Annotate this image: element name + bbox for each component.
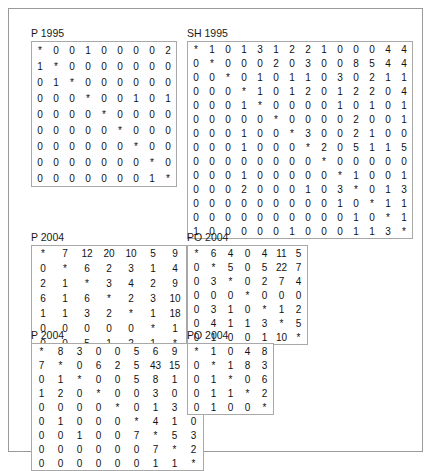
matrix-cell: 0 bbox=[252, 210, 268, 224]
matrix-cell: 0 bbox=[112, 154, 128, 170]
matrix-cell: 0 bbox=[268, 70, 284, 84]
matrix-cell: 0 bbox=[239, 302, 256, 316]
matrix-cell: 0 bbox=[204, 70, 220, 84]
matrix-cell: 0 bbox=[70, 442, 89, 456]
matrix-cell: 1 bbox=[316, 42, 332, 57]
matrix-cell: 0 bbox=[300, 168, 316, 182]
matrix-cell: 5 bbox=[364, 56, 380, 70]
matrix-cell: 1 bbox=[332, 84, 348, 98]
matrix-cell: * bbox=[188, 344, 206, 359]
matrix-cell: 0 bbox=[268, 210, 284, 224]
matrix-cell: 2 bbox=[290, 302, 308, 316]
matrix-po-2004-bottom-title: PO 2004 bbox=[187, 329, 274, 341]
matrix-cell: 1 bbox=[380, 182, 396, 196]
matrix-row: 0001000*205115 bbox=[188, 140, 413, 154]
matrix-cell: 0 bbox=[188, 386, 206, 400]
matrix-cell: 1 bbox=[32, 58, 49, 74]
matrix-cell: 1 bbox=[128, 90, 144, 106]
matrix-row: *00100002 bbox=[32, 42, 177, 59]
matrix-cell: * bbox=[108, 400, 127, 414]
matrix-cell: 0 bbox=[239, 246, 256, 261]
matrix-cell: 0 bbox=[188, 316, 206, 330]
matrix-cell: 0 bbox=[284, 112, 300, 126]
matrix-cell: 1 bbox=[252, 70, 268, 84]
matrix-cell: * bbox=[222, 274, 239, 288]
matrix-cell: 10 bbox=[120, 246, 142, 262]
matrix-cell: 0 bbox=[89, 442, 108, 456]
matrix-cell: 0 bbox=[348, 154, 364, 168]
matrix-cell: 1 bbox=[32, 306, 55, 321]
matrix-cell: 0 bbox=[316, 70, 332, 84]
matrix-cell: 3 bbox=[396, 182, 413, 196]
matrix-row: 00000011* bbox=[32, 456, 204, 471]
matrix-cell: 0 bbox=[332, 112, 348, 126]
matrix-cell: 0 bbox=[204, 98, 220, 112]
matrix-cell: 0 bbox=[284, 182, 300, 196]
matrix-row: 0*62314 bbox=[32, 261, 187, 276]
matrix-cell: 0 bbox=[268, 196, 284, 210]
matrix-cell: * bbox=[128, 138, 144, 154]
matrix-cell: 0 bbox=[64, 42, 80, 59]
matrix-cell: * bbox=[236, 84, 252, 98]
matrix-cell: 0 bbox=[80, 74, 96, 90]
matrix-cell: 0 bbox=[184, 414, 204, 428]
matrix-cell: * bbox=[32, 42, 49, 59]
matrix-cell: 3 bbox=[300, 56, 316, 70]
matrix-cell: 0 bbox=[128, 74, 144, 90]
matrix-cell: 10 bbox=[273, 330, 290, 345]
matrix-cell: 0 bbox=[252, 154, 268, 168]
matrix-cell: 3 bbox=[300, 126, 316, 140]
matrix-cell: 5 bbox=[142, 246, 164, 262]
matrix-cell: 0 bbox=[204, 140, 220, 154]
matrix-cell: * bbox=[48, 58, 64, 74]
matrix-cell: 1 bbox=[380, 140, 396, 154]
matrix-cell: 0 bbox=[332, 140, 348, 154]
matrix-cell: 0 bbox=[364, 182, 380, 196]
matrix-cell: 0 bbox=[80, 106, 96, 122]
matrix-cell: 0 bbox=[332, 224, 348, 239]
matrix-cell: 2 bbox=[120, 291, 142, 306]
matrix-cell: 0 bbox=[268, 98, 284, 112]
matrix-cell: * bbox=[76, 276, 98, 291]
matrix-cell: 4 bbox=[120, 276, 142, 291]
matrix-row: 000100000*1001 bbox=[188, 168, 413, 182]
matrix-cell: 0 bbox=[144, 106, 160, 122]
matrix-cell: 0 bbox=[316, 126, 332, 140]
matrix-cell: 0 bbox=[51, 428, 70, 442]
matrix-row: 01*005811 bbox=[32, 372, 204, 386]
matrix-cell: * bbox=[188, 246, 206, 261]
matrix-row: 01000*410 bbox=[32, 414, 204, 428]
matrix-cell: 0 bbox=[300, 196, 316, 210]
matrix-cell: * bbox=[284, 126, 300, 140]
matrix-cell: 0 bbox=[80, 170, 96, 187]
matrix-cell: 0 bbox=[160, 106, 177, 122]
matrix-cell: * bbox=[54, 261, 76, 276]
matrix-cell: 1 bbox=[236, 126, 252, 140]
matrix-cell: 0 bbox=[220, 98, 236, 112]
matrix-row: 0*505227 bbox=[188, 260, 308, 274]
matrix-cell: 0 bbox=[220, 112, 236, 126]
matrix-p-2004-bottom-grid: *8300569117*062543151601*005811120*00302… bbox=[31, 343, 204, 471]
matrix-cell: 0 bbox=[348, 98, 364, 112]
matrix-cell: 0 bbox=[290, 288, 308, 302]
matrix-row: *1013122100044 bbox=[188, 42, 413, 57]
matrix-cell: 0 bbox=[112, 170, 128, 187]
matrix-cell: 0 bbox=[204, 112, 220, 126]
matrix-cell: * bbox=[64, 74, 80, 90]
matrix-row: 000*000 bbox=[188, 288, 308, 302]
matrix-cell: 0 bbox=[48, 42, 64, 59]
matrix-cell: 6 bbox=[76, 261, 98, 276]
matrix-cell: 3 bbox=[252, 42, 268, 57]
matrix-cell: * bbox=[112, 122, 128, 138]
matrix-cell: 0 bbox=[220, 154, 236, 168]
matrix-cell: 8 bbox=[51, 344, 70, 359]
matrix-cell: 1 bbox=[165, 414, 184, 428]
matrix-cell: 0 bbox=[188, 168, 205, 182]
matrix-row: 0000000*0 bbox=[32, 154, 177, 170]
matrix-cell: 6 bbox=[256, 372, 274, 386]
matrix-cell: 0 bbox=[205, 288, 222, 302]
matrix-cell: 1 bbox=[348, 168, 364, 182]
matrix-cell: 0 bbox=[108, 456, 127, 471]
matrix-cell: * bbox=[332, 168, 348, 182]
matrix-cell: 0 bbox=[239, 274, 256, 288]
